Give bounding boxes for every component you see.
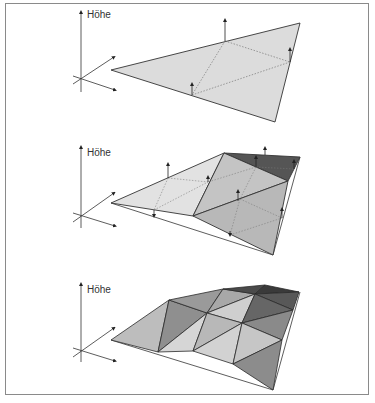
fractal-surface <box>111 285 299 390</box>
terrain-diagram <box>0 0 375 403</box>
axes-3 <box>73 284 115 362</box>
refined-surface <box>111 153 300 255</box>
axes-2 <box>73 147 115 228</box>
flat-triangle <box>111 23 300 122</box>
axes-1 <box>73 12 115 92</box>
